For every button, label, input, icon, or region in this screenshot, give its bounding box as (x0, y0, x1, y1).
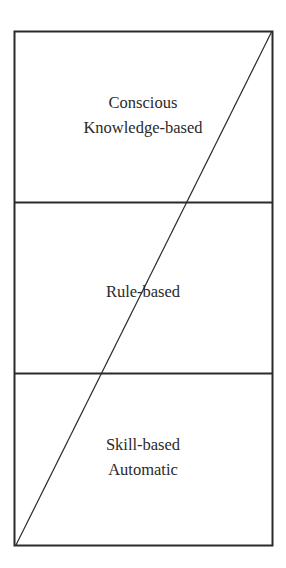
level-label-line: Rule-based (14, 279, 272, 304)
level-skill-based: Skill-based Automatic (14, 432, 272, 482)
level-knowledge-based: Conscious Knowledge-based (14, 90, 272, 140)
level-label-line: Skill-based (14, 432, 272, 457)
level-label-line: Automatic (14, 457, 272, 482)
level-label-line: Knowledge-based (14, 115, 272, 140)
level-label-line: Conscious (14, 90, 272, 115)
level-rule-based: Rule-based (14, 279, 272, 304)
